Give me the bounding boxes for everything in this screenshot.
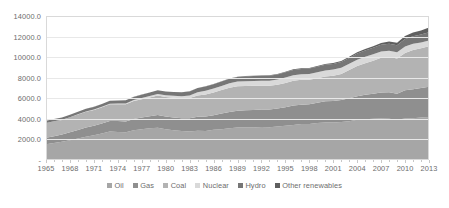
x-axis-minor-tick <box>222 160 223 162</box>
x-axis-minor-tick <box>317 160 318 162</box>
y-axis-label: 6000.0 <box>18 94 41 103</box>
gridline <box>46 98 429 99</box>
x-axis-label: 1971 <box>85 164 102 173</box>
x-axis-minor-tick <box>293 160 294 162</box>
gridline <box>46 78 429 79</box>
x-axis-minor-tick <box>158 160 159 162</box>
legend-swatch-icon <box>238 183 243 188</box>
x-axis-minor-tick <box>301 160 302 162</box>
plot-area <box>46 16 429 160</box>
x-axis-minor-tick <box>126 160 127 162</box>
x-axis-tick <box>309 160 310 163</box>
x-axis-minor-tick <box>54 160 55 162</box>
gridline <box>46 16 429 17</box>
legend-item-oil[interactable]: Oil <box>107 181 124 190</box>
x-axis-minor-tick <box>245 160 246 162</box>
x-axis-tick <box>405 160 406 163</box>
x-axis-label: 2001 <box>325 164 342 173</box>
x-axis-minor-tick <box>62 160 63 162</box>
legend-label: Nuclear <box>203 181 229 190</box>
x-axis-label: 2010 <box>397 164 414 173</box>
x-axis-label: 1968 <box>62 164 79 173</box>
legend-label: Coal <box>171 181 187 190</box>
x-axis-label: 2004 <box>349 164 366 173</box>
y-axis-label: 8000.0 <box>18 73 41 82</box>
legend-swatch-icon <box>163 183 168 188</box>
x-axis-minor-tick <box>110 160 111 162</box>
legend-swatch-icon <box>133 183 138 188</box>
legend-label: Hydro <box>245 181 265 190</box>
legend-label: Oil <box>114 181 123 190</box>
legend-item-hydro[interactable]: Hydro <box>238 181 266 190</box>
x-axis-tick <box>118 160 119 163</box>
x-axis-tick <box>238 160 239 163</box>
x-axis-label: 1998 <box>301 164 318 173</box>
x-axis-tick <box>94 160 95 163</box>
x-axis-minor-tick <box>182 160 183 162</box>
x-axis-minor-tick <box>373 160 374 162</box>
y-axis-label: 4000.0 <box>18 114 41 123</box>
x-axis-minor-tick <box>206 160 207 162</box>
x-axis-tick <box>214 160 215 163</box>
x-axis-minor-tick <box>389 160 390 162</box>
x-axis-tick <box>357 160 358 163</box>
legend-swatch-icon <box>275 183 280 188</box>
x-axis-minor-tick <box>413 160 414 162</box>
legend-swatch-icon <box>107 183 112 188</box>
y-axis-label: 2000.0 <box>18 135 41 144</box>
x-axis-tick <box>333 160 334 163</box>
x-axis-tick <box>142 160 143 163</box>
x-axis-minor-tick <box>349 160 350 162</box>
x-axis-label: 1986 <box>205 164 222 173</box>
y-axis-label: 14000.0 <box>14 12 41 21</box>
x-axis-tick <box>166 160 167 163</box>
legend-item-nuclear[interactable]: Nuclear <box>195 181 229 190</box>
x-axis-minor-tick <box>325 160 326 162</box>
x-axis-tick <box>429 160 430 163</box>
x-axis-minor-tick <box>78 160 79 162</box>
x-axis-label: 2013 <box>421 164 438 173</box>
x-axis-minor-tick <box>150 160 151 162</box>
legend-item-gas[interactable]: Gas <box>133 181 154 190</box>
y-axis: -2000.04000.06000.08000.010000.012000.01… <box>0 0 46 176</box>
gridline <box>46 119 429 120</box>
x-axis-label: 1974 <box>109 164 126 173</box>
gridline <box>46 139 429 140</box>
x-axis-minor-tick <box>365 160 366 162</box>
legend-label: Gas <box>140 181 154 190</box>
legend-item-coal[interactable]: Coal <box>163 181 186 190</box>
x-axis-label: 1995 <box>277 164 294 173</box>
gridline <box>46 37 429 38</box>
x-axis-tick <box>261 160 262 163</box>
x-axis-tick <box>190 160 191 163</box>
x-axis-minor-tick <box>277 160 278 162</box>
x-axis-label: 1992 <box>253 164 270 173</box>
x-axis-minor-tick <box>102 160 103 162</box>
x-axis-tick <box>381 160 382 163</box>
x-axis-label: 1977 <box>133 164 150 173</box>
x-axis-minor-tick <box>397 160 398 162</box>
x-axis-tick <box>70 160 71 163</box>
gridline <box>46 57 429 58</box>
x-axis-label: 1980 <box>157 164 174 173</box>
x-axis-minor-tick <box>86 160 87 162</box>
x-axis-minor-tick <box>230 160 231 162</box>
x-axis-tick <box>285 160 286 163</box>
legend-swatch-icon <box>195 183 200 188</box>
x-axis-label: 1965 <box>38 164 55 173</box>
x-axis-minor-tick <box>134 160 135 162</box>
x-axis-minor-tick <box>341 160 342 162</box>
x-axis-minor-tick <box>269 160 270 162</box>
legend-label: Other renewables <box>282 181 342 190</box>
x-axis-minor-tick <box>421 160 422 162</box>
legend-item-other-renewables[interactable]: Other renewables <box>275 181 342 190</box>
y-axis-label: 12000.0 <box>14 32 41 41</box>
x-axis-minor-tick <box>174 160 175 162</box>
x-axis-minor-tick <box>253 160 254 162</box>
x-axis: 1965196819711974197719801983198619891992… <box>46 160 429 178</box>
x-axis-label: 1989 <box>229 164 246 173</box>
stacked-area-chart: -2000.04000.06000.08000.010000.012000.01… <box>0 0 449 208</box>
chart-legend: OilGasCoalNuclearHydroOther renewables <box>0 181 449 190</box>
x-axis-tick <box>46 160 47 163</box>
x-axis-label: 2007 <box>373 164 390 173</box>
